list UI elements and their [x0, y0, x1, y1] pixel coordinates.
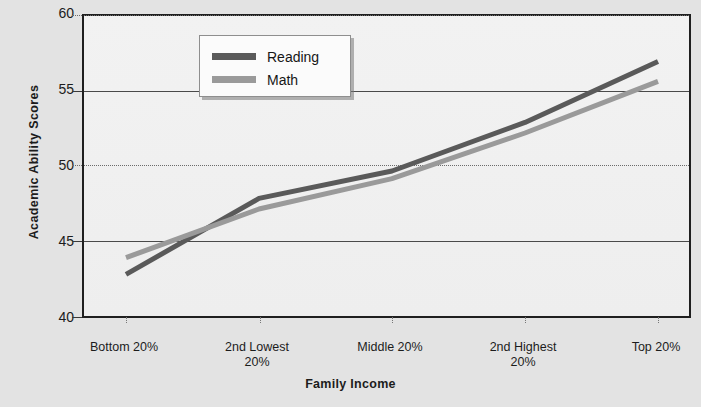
legend-label-reading: Reading	[267, 49, 319, 65]
x-tick-label: 2nd Lowest 20%	[197, 340, 317, 370]
y-tickmark-55	[72, 91, 82, 92]
x-tick-label: 2nd Highest 20%	[463, 340, 583, 370]
legend-item-math: Math	[212, 68, 350, 91]
y-tick-label: 60	[32, 5, 74, 21]
y-tickmark-50	[72, 165, 82, 166]
y-tick-label: 45	[32, 233, 74, 249]
x-axis-title: Family Income	[0, 377, 701, 391]
plot-area: Reading Math	[82, 14, 691, 318]
y-tickmark-40	[72, 317, 82, 318]
y-tickmark-45	[72, 241, 82, 242]
x-tick-label: Middle 20%	[330, 340, 450, 355]
y-tick-label: 50	[32, 157, 74, 173]
legend-item-reading: Reading	[212, 45, 350, 68]
legend-swatch-reading	[212, 53, 256, 60]
legend: Reading Math	[199, 35, 351, 97]
chart-container: Academic Ability Scores 60 55 50 45 40 R…	[0, 0, 701, 407]
x-tick-label: Bottom 20%	[64, 340, 184, 355]
y-tick-label: 55	[32, 81, 74, 97]
legend-swatch-math	[212, 76, 256, 83]
y-axis-tick-labels: 60 55 50 45 40	[0, 0, 74, 407]
series-lines	[84, 16, 693, 320]
x-tick-label: Top 20%	[596, 340, 701, 355]
y-tickmark-60	[72, 15, 82, 16]
y-tick-label: 40	[32, 309, 74, 325]
legend-label-math: Math	[267, 72, 298, 88]
